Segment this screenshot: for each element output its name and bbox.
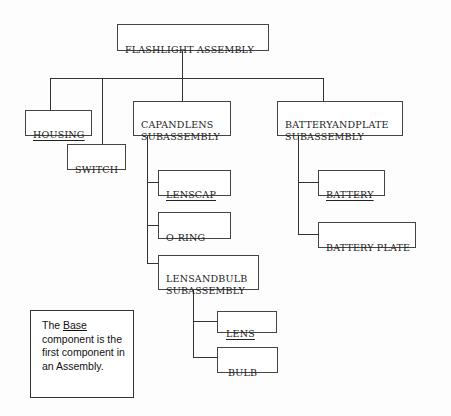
note-emphasis: Base	[63, 319, 87, 331]
node-label: O-RING	[166, 232, 205, 243]
connector-batteryandplate-trunk	[298, 135, 299, 235]
node-label: LENS	[226, 328, 255, 339]
connector-lensandbulb	[147, 263, 158, 264]
connector-bulb	[193, 357, 217, 358]
connector-batteryandplate	[323, 78, 324, 101]
connector-switch	[102, 78, 103, 144]
connector-capandlens	[182, 78, 183, 101]
node-o-ring: O-RING	[158, 212, 231, 239]
node-label: CAPANDLENS SUBASSEMBLY	[141, 119, 220, 142]
node-label: BATTERY	[326, 189, 374, 200]
connector-capandlens-trunk	[147, 135, 148, 264]
node-label: SWITCH	[75, 164, 118, 175]
connector-lens	[193, 321, 217, 322]
node-bulb: BULB	[217, 347, 278, 373]
node-capandlens-subassembly: CAPANDLENS SUBASSEMBLY	[133, 101, 231, 136]
connector-oring	[147, 225, 158, 226]
note-suffix: component is the first component in an A…	[42, 333, 125, 372]
node-housing: HOUSING	[25, 110, 92, 136]
node-label: FLASHLIGHT ASSEMBLY	[125, 44, 254, 55]
assembly-diagram: FLASHLIGHT ASSEMBLY HOUSING SWITCH CAPAN…	[0, 0, 451, 416]
connector-batteryplate	[298, 234, 318, 235]
connector-level1-bus	[50, 78, 324, 79]
connector-lensandbulb-trunk	[193, 289, 194, 358]
node-label: BATTERYANDPLATE SUBASSEMBLY	[285, 119, 389, 142]
node-flashlight-assembly: FLASHLIGHT ASSEMBLY	[117, 24, 269, 51]
node-label: LENSANDBULB SUBASSEMBLY	[166, 273, 247, 296]
connector-housing	[50, 78, 51, 110]
connector-battery	[298, 182, 318, 183]
node-batteryandplate-subassembly: BATTERYANDPLATE SUBASSEMBLY	[277, 101, 403, 136]
note-prefix: The	[42, 319, 63, 331]
node-battery: BATTERY	[318, 170, 385, 196]
connector-lenscap	[147, 182, 158, 183]
node-battery-plate: BATTERY PLATE	[318, 222, 416, 248]
node-lenscap: LENSCAP	[158, 170, 231, 196]
node-switch: SWITCH	[67, 144, 126, 170]
base-component-note: The Base component is the first componen…	[30, 310, 134, 398]
node-label: HOUSING	[33, 129, 85, 140]
node-lens: LENS	[217, 311, 277, 333]
node-label: LENSCAP	[166, 189, 216, 200]
node-lensandbulb-subassembly: LENSANDBULB SUBASSEMBLY	[158, 255, 259, 290]
node-label: BULB	[228, 367, 257, 378]
node-label: BATTERY PLATE	[326, 242, 410, 253]
